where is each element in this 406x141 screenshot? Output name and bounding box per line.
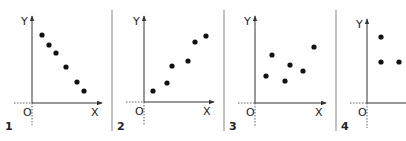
data-point bbox=[169, 63, 174, 68]
data-point bbox=[185, 58, 190, 63]
panel-number: 2 bbox=[117, 120, 125, 133]
x-axis-label: X bbox=[203, 105, 211, 118]
data-point bbox=[164, 80, 169, 85]
data-point bbox=[81, 88, 86, 93]
y-axis-label: Y bbox=[355, 18, 363, 31]
origin-label: O bbox=[246, 106, 255, 119]
data-point bbox=[378, 34, 383, 39]
data-point bbox=[300, 68, 305, 73]
panel-number: 1 bbox=[5, 120, 13, 133]
data-point bbox=[74, 79, 79, 84]
data-point bbox=[63, 64, 68, 69]
data-point bbox=[311, 44, 316, 49]
data-point bbox=[53, 50, 58, 55]
y-axis-label: Y bbox=[132, 15, 140, 28]
origin-label: O bbox=[358, 106, 367, 119]
data-point bbox=[269, 52, 274, 57]
data-point bbox=[192, 39, 197, 44]
origin-label: O bbox=[23, 106, 32, 119]
data-point bbox=[396, 59, 401, 64]
scatter-panel-4: YO4 bbox=[341, 18, 406, 133]
scatter-panel-3: YOX3 bbox=[229, 15, 326, 133]
panel-number: 4 bbox=[341, 120, 349, 133]
data-point bbox=[263, 73, 268, 78]
x-axis-label: X bbox=[315, 106, 323, 119]
x-axis-label: X bbox=[91, 106, 99, 119]
data-point bbox=[150, 88, 155, 93]
scatter-panels: YOX1YOX2YOX3YO4 bbox=[5, 15, 406, 133]
data-point bbox=[282, 78, 287, 83]
scatter-panel-2: YOX2 bbox=[117, 15, 214, 133]
data-point bbox=[203, 33, 208, 38]
data-point bbox=[378, 59, 383, 64]
data-point bbox=[46, 42, 51, 47]
scatter-panel-1: YOX1 bbox=[5, 15, 102, 133]
data-point bbox=[287, 62, 292, 67]
scatter-figure: YOX1YOX2YOX3YO4 bbox=[0, 0, 406, 141]
origin-label: O bbox=[135, 105, 144, 118]
data-point bbox=[39, 32, 44, 37]
y-axis-label: Y bbox=[20, 15, 28, 28]
y-axis-label: Y bbox=[243, 15, 251, 28]
panel-number: 3 bbox=[229, 120, 237, 133]
